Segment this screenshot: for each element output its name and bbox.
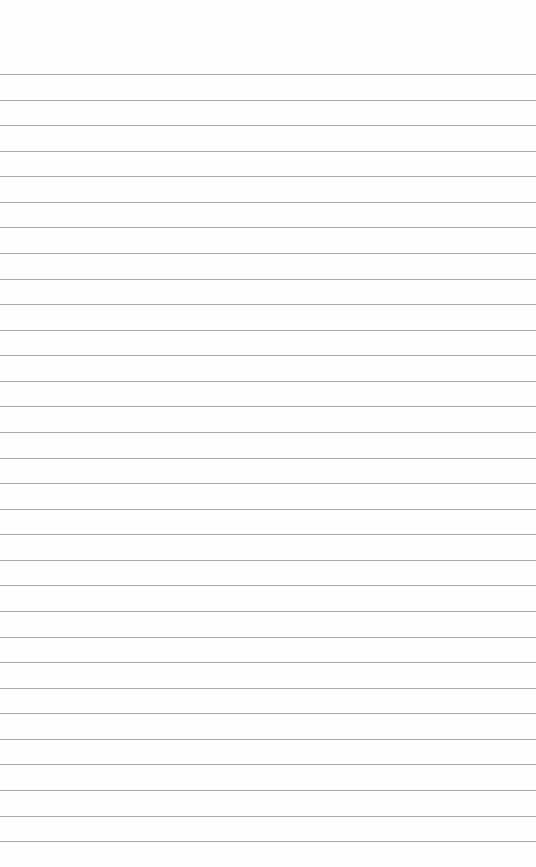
ruled-line [0,381,536,382]
ruled-line [0,125,536,126]
ruled-line [0,253,536,254]
ruled-line [0,585,536,586]
ruled-line [0,151,536,152]
ruled-line [0,662,536,663]
ruled-line [0,458,536,459]
ruled-line [0,432,536,433]
ruled-line [0,534,536,535]
ruled-line [0,688,536,689]
ruled-line [0,560,536,561]
ruled-line [0,790,536,791]
ruled-line [0,74,536,75]
ruled-line [0,637,536,638]
lined-paper-sheet [0,0,536,867]
ruled-line [0,841,536,842]
ruled-line [0,176,536,177]
ruled-line [0,279,536,280]
ruled-line [0,406,536,407]
ruled-line [0,304,536,305]
ruled-line [0,227,536,228]
ruled-line [0,764,536,765]
ruled-line [0,816,536,817]
ruled-line [0,355,536,356]
ruled-line [0,483,536,484]
ruled-line [0,202,536,203]
ruled-line [0,330,536,331]
ruled-line [0,739,536,740]
ruled-line [0,100,536,101]
ruled-line [0,509,536,510]
ruled-line [0,713,536,714]
ruled-line [0,611,536,612]
